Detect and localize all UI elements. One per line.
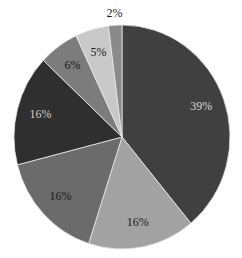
pie-chart: 39%16%16%16%6%5%2% — [0, 0, 242, 258]
slice-label: 16% — [50, 189, 72, 203]
slice-label: 39% — [190, 99, 212, 113]
slice-label: 2% — [107, 6, 123, 20]
slice-label: 5% — [90, 45, 106, 59]
pie-slices — [14, 25, 230, 249]
slice-label: 16% — [127, 215, 149, 229]
slice-label: 16% — [29, 107, 51, 121]
slice-label: 6% — [64, 58, 80, 72]
